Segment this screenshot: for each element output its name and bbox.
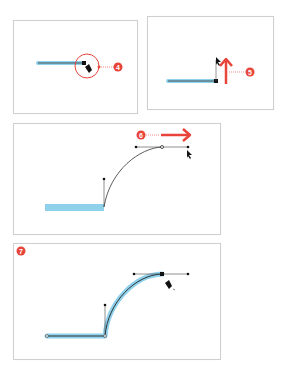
- step-4-illustration: 4: [38, 54, 123, 78]
- handle-point: [187, 273, 190, 276]
- step-number: 4: [116, 64, 120, 71]
- diagram-canvas: 4 5 6: [0, 0, 285, 383]
- step-5-illustration: 5: [168, 57, 255, 84]
- right-arrow-icon: [161, 129, 190, 141]
- pen-cursor-icon: [165, 280, 175, 290]
- handle-point: [103, 178, 106, 181]
- step-badge-5: 5: [246, 68, 255, 77]
- highlighted-segment: [45, 204, 104, 211]
- cursor-arrow-icon: [187, 150, 192, 159]
- end-anchor: [160, 272, 164, 276]
- start-anchor: [46, 335, 49, 338]
- step-6-illustration: 6: [45, 129, 192, 211]
- step-badge-6: 6: [137, 131, 146, 140]
- step-badge-4: 4: [114, 63, 123, 72]
- handle-point: [135, 146, 138, 149]
- step-badge-7: 7: [17, 247, 26, 256]
- handle-point: [187, 146, 190, 149]
- anchor-point: [82, 61, 86, 65]
- pen-cursor-icon: [85, 64, 92, 73]
- step-number: 6: [139, 132, 143, 139]
- step-number: 7: [19, 248, 23, 255]
- handle-point: [104, 304, 107, 307]
- up-arrow-icon: [220, 59, 232, 84]
- handle-point: [133, 273, 136, 276]
- curve-segment: [104, 147, 162, 207]
- step-7-illustration: 7: [17, 247, 190, 338]
- step-number: 5: [248, 69, 252, 76]
- anchor-point: [161, 146, 164, 149]
- callout-dot: [98, 66, 101, 69]
- corner-anchor: [104, 335, 107, 338]
